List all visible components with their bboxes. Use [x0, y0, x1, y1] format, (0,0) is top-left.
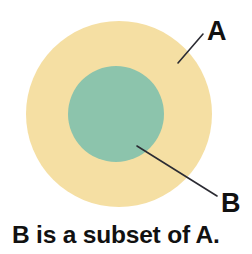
figure-caption: B is a subset of A.	[12, 221, 220, 248]
set-b-circle	[68, 66, 164, 162]
set-b-label: B	[221, 188, 241, 218]
set-a-label: A	[207, 16, 227, 46]
venn-diagram-figure: A B B is a subset of A.	[0, 0, 252, 254]
diagram-canvas: A B B is a subset of A.	[0, 0, 252, 254]
